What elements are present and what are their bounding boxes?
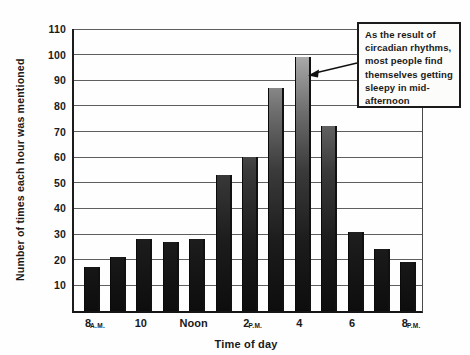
x-tick-suffix: P.M. xyxy=(249,322,263,329)
x-tick-label-6: 6 xyxy=(352,317,358,333)
y-tick-label-60: 60 xyxy=(28,150,66,164)
bar-10-a-m- xyxy=(136,239,152,311)
bar-11-a-m- xyxy=(163,242,179,311)
circadian-bar-chart-figure: Number of times each hour was mentioned … xyxy=(0,0,470,355)
bar-8-p-m- xyxy=(400,262,416,311)
bar-1-p-m- xyxy=(216,175,232,311)
bar-3-p-m- xyxy=(268,88,284,311)
y-axis-title: Number of times each hour was mentioned xyxy=(12,29,28,311)
x-tick-suffix: A.M. xyxy=(90,322,105,329)
y-tick-label-90: 90 xyxy=(28,73,66,87)
bar-6-p-m- xyxy=(348,232,364,311)
bar-4-p-m- xyxy=(295,57,311,311)
y-tick-label-30: 30 xyxy=(28,227,66,241)
x-tick-label-10: 10 xyxy=(141,317,153,333)
x-tick-label-4: 4 xyxy=(299,317,305,333)
x-tick-label-8-a-m-: 8A.M. xyxy=(88,317,94,333)
x-axis-title: Time of day xyxy=(72,338,420,350)
bar-2-p-m- xyxy=(242,157,258,311)
x-tick-suffix: P.M. xyxy=(407,322,421,329)
y-tick-label-110: 110 xyxy=(28,22,66,36)
x-tick-label-noon: Noon xyxy=(194,317,222,333)
y-tick-label-80: 80 xyxy=(28,99,66,113)
bar-8-a-m- xyxy=(84,267,100,311)
callout-box: As the result of circadian rhythms, most… xyxy=(357,22,461,108)
y-tick-label-100: 100 xyxy=(28,48,66,62)
x-tick-label-2-p-m-: 2P.M. xyxy=(246,317,252,333)
bar-9-a-m- xyxy=(110,257,126,311)
bar-5-p-m- xyxy=(321,126,337,311)
bar-7-p-m- xyxy=(374,249,390,311)
y-tick-label-20: 20 xyxy=(28,253,66,267)
bar-noon xyxy=(189,239,205,311)
y-tick-label-50: 50 xyxy=(28,176,66,190)
y-tick-label-40: 40 xyxy=(28,201,66,215)
x-tick-label-8-p-m-: 8P.M. xyxy=(405,317,411,333)
gridline-70 xyxy=(74,131,422,132)
y-tick-label-70: 70 xyxy=(28,125,66,139)
y-tick-label-10: 10 xyxy=(28,278,66,292)
